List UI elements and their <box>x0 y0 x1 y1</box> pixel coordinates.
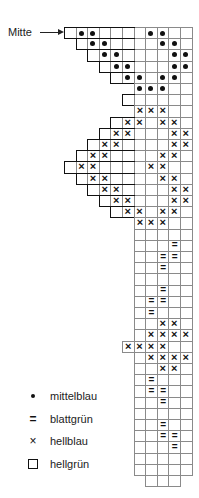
cross-icon: × <box>123 342 134 352</box>
double-line-icon: = <box>157 251 169 262</box>
cross-icon: × <box>135 217 146 228</box>
legend-label: hellgrün <box>50 458 89 470</box>
legend-label: mittelblau <box>50 390 97 402</box>
step-outline <box>110 206 134 218</box>
dot-icon <box>145 83 157 94</box>
grid-cell <box>168 475 181 487</box>
cross-icon: × <box>135 105 146 116</box>
cross-icon: × <box>145 105 157 116</box>
dot-icon <box>157 28 169 38</box>
double-line-icon: = <box>168 240 180 251</box>
cross-icon: × <box>157 161 169 172</box>
double-line-icon: = <box>157 262 169 273</box>
legend-item-hellblau: × hellblau <box>26 430 97 453</box>
double-line-icon: = <box>157 385 169 396</box>
double-line-icon: = <box>168 430 180 441</box>
dot-icon <box>157 83 169 94</box>
cross-icon: × <box>134 117 146 128</box>
double-line-icon: = <box>145 307 157 318</box>
double-line-icon: = <box>157 397 169 408</box>
double-line-icon: = <box>157 419 169 430</box>
cross-icon: × <box>157 363 169 374</box>
grid-cell <box>180 464 193 476</box>
double-line-icon: = <box>157 296 169 307</box>
dot-icon <box>180 49 192 60</box>
cross-icon: × <box>157 117 169 128</box>
cross-icon: × <box>145 161 157 172</box>
double-line-icon: = <box>168 251 180 262</box>
legend-label: blattgrün <box>50 413 93 425</box>
legend: mittelblau = blattgrün × hellblau hellgr… <box>26 385 97 475</box>
cross-icon: × <box>180 195 192 206</box>
dot-icon <box>168 72 180 83</box>
legend-item-blattgruen: = blattgrün <box>26 408 97 431</box>
double-line-icon: = <box>145 374 157 385</box>
dot-icon <box>145 28 157 38</box>
cross-icon: × <box>145 329 157 340</box>
cross-icon: × <box>26 434 40 448</box>
cross-icon: × <box>168 363 180 374</box>
cross-icon: × <box>168 329 180 340</box>
double-line-icon: = <box>26 412 40 426</box>
cross-icon: × <box>157 217 169 228</box>
arrow-right-icon <box>40 32 60 33</box>
empty-square-icon <box>26 459 40 469</box>
cross-icon: × <box>157 105 169 116</box>
double-line-icon: = <box>145 296 157 307</box>
step-outline <box>110 72 134 84</box>
dot-icon <box>168 61 180 72</box>
double-line-icon: = <box>157 430 169 441</box>
double-line-icon: = <box>168 441 180 452</box>
dot-icon <box>26 394 40 398</box>
dot-icon <box>168 38 180 49</box>
mitte-label: Mitte <box>8 26 32 38</box>
dot-icon <box>157 72 169 83</box>
cross-icon: × <box>180 352 192 363</box>
dot-icon <box>135 83 146 94</box>
dot-icon <box>157 38 169 49</box>
legend-item-hellgruen: hellgrün <box>26 453 97 476</box>
dot-icon <box>168 49 180 60</box>
cross-icon: × <box>180 329 192 340</box>
legend-label: hellblau <box>50 435 88 447</box>
legend-item-mittelblau: mittelblau <box>26 385 97 408</box>
cross-icon: × <box>168 150 180 161</box>
cross-icon: × <box>145 217 157 228</box>
cross-icon: × <box>157 173 169 184</box>
dot-icon <box>134 72 146 83</box>
cross-icon: × <box>168 206 180 217</box>
double-line-icon: = <box>157 285 169 296</box>
double-line-icon: = <box>145 385 157 396</box>
cross-icon: × <box>180 139 192 150</box>
knitting-chart: Mitte ××××××××××××××××××××××××××××××××××… <box>0 0 199 498</box>
cross-icon: × <box>157 329 169 340</box>
cross-icon: × <box>134 341 146 352</box>
dot-icon <box>180 61 192 72</box>
cross-icon: × <box>145 352 157 363</box>
